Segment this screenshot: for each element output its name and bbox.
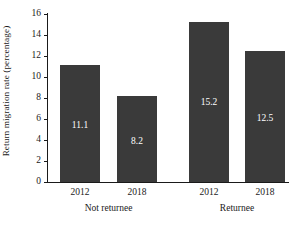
y-tick-mark bbox=[44, 182, 47, 183]
y-tick-label: 2 bbox=[36, 154, 41, 167]
y-axis-tick: 14 bbox=[0, 35, 47, 36]
y-axis-tick: 16 bbox=[0, 14, 47, 15]
y-axis-tick: 10 bbox=[0, 77, 47, 78]
y-axis-tick: 6 bbox=[0, 119, 47, 120]
bar-value-label: 15.2 bbox=[189, 97, 229, 108]
plot-area: 11.18.215.212.5 bbox=[47, 14, 289, 182]
y-axis-title: Return migration rate (percentage) bbox=[0, 0, 14, 182]
bar-value-label: 12.5 bbox=[245, 113, 285, 124]
bar: 8.2 bbox=[117, 96, 157, 182]
x-group-label: Not returnee bbox=[54, 202, 164, 215]
y-axis-tick: 2 bbox=[0, 161, 47, 162]
y-tick-label: 12 bbox=[32, 49, 42, 62]
bar: 15.2 bbox=[189, 22, 229, 182]
y-axis-tick: 12 bbox=[0, 56, 47, 57]
x-tick-label: 2018 bbox=[107, 186, 167, 199]
y-tick-label: 4 bbox=[36, 133, 41, 146]
y-axis-tick: 8 bbox=[0, 98, 47, 99]
y-tick-label: 8 bbox=[36, 91, 41, 104]
bar: 12.5 bbox=[245, 51, 285, 182]
y-tick-label: 6 bbox=[36, 112, 41, 125]
y-tick-label: 0 bbox=[36, 175, 41, 188]
x-group-label: Returnee bbox=[182, 202, 292, 215]
y-tick-label: 10 bbox=[32, 70, 42, 83]
y-tick-label: 16 bbox=[32, 7, 42, 20]
x-tick-label: 2012 bbox=[179, 186, 239, 199]
bar-value-label: 11.1 bbox=[60, 120, 100, 131]
bar-value-label: 8.2 bbox=[117, 136, 157, 147]
bar-chart: Return migration rate (percentage) 02468… bbox=[0, 0, 296, 227]
x-tick-label: 2012 bbox=[50, 186, 110, 199]
x-tick-label: 2018 bbox=[235, 186, 295, 199]
y-tick-label: 14 bbox=[32, 28, 42, 41]
x-axis-line bbox=[47, 182, 289, 183]
y-axis-tick: 0 bbox=[0, 182, 47, 183]
bar: 11.1 bbox=[60, 65, 100, 182]
y-axis-tick: 4 bbox=[0, 140, 47, 141]
